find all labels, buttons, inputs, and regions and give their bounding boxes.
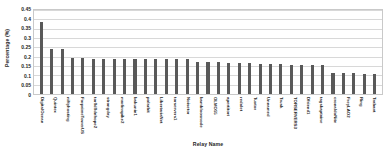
bar[interactable] (352, 73, 355, 94)
x-axis-tick: apertitort (226, 97, 230, 116)
x-axis-tick-slot: Noisetor (181, 96, 194, 140)
bar[interactable] (238, 63, 241, 94)
y-axis-tick: 0.05 (21, 83, 31, 88)
x-axis-tick-slot: apertitort (221, 96, 234, 140)
bar-slot (276, 10, 286, 94)
x-axis-tick: Tuxtor (253, 97, 257, 110)
x-axis-tick-slot: TORSERVERS3 (288, 96, 301, 140)
bar-slot (265, 10, 275, 94)
bar-slot (255, 10, 265, 94)
bar[interactable] (279, 64, 282, 94)
bar[interactable] (311, 65, 314, 94)
bar[interactable] (102, 59, 105, 94)
bar-slot (99, 10, 109, 94)
bar[interactable] (321, 65, 324, 94)
x-axis-tick-slot: tor0d0dnhope2 (88, 96, 101, 140)
bar-slot (224, 10, 234, 94)
x-axis-tick: polarbit (146, 97, 150, 113)
bar[interactable] (331, 73, 334, 94)
y-axis-tick: 0.4 (24, 16, 31, 21)
x-axis-tick-slot: Dfriend1 (301, 96, 314, 140)
x-axis-tick-slot: strongday (102, 96, 115, 140)
bar-slot (36, 10, 46, 94)
bar[interactable] (71, 58, 74, 94)
x-axis-tick: Trusk (279, 97, 283, 108)
bar-slot (171, 10, 181, 94)
bar[interactable] (40, 22, 43, 94)
bar-slot (57, 10, 67, 94)
x-axis-tick-slot: marlinspike2 (115, 96, 128, 140)
bar[interactable] (259, 64, 262, 94)
bar[interactable] (300, 65, 303, 94)
bar-slot (213, 10, 223, 94)
bar[interactable] (363, 74, 366, 94)
x-axis-tick: bambloosnode (199, 97, 203, 128)
bar[interactable] (123, 59, 126, 94)
y-axis-tick: 0.3 (24, 35, 31, 40)
x-axis-tick-slot: FreyLAO2 (341, 96, 354, 140)
bar[interactable] (373, 74, 376, 94)
x-axis-tick: redalet (239, 97, 243, 111)
bar-slot (67, 10, 77, 94)
bar-slot (161, 10, 171, 94)
y-axis-tick: 0.15 (21, 64, 31, 69)
bar[interactable] (269, 64, 272, 94)
bar-slot (140, 10, 150, 94)
bar[interactable] (248, 63, 251, 94)
x-axis-tick: torservers1 (173, 97, 177, 120)
bar[interactable] (217, 62, 220, 94)
bar[interactable] (50, 49, 53, 94)
x-axis-tick-slot: cronaldoNite (328, 96, 341, 140)
x-axis-tick: Unnamed (266, 97, 270, 117)
x-axis-tick: Ring (359, 97, 363, 107)
x-axis-tick: TORSERVERS3 (292, 97, 296, 129)
bar[interactable] (165, 59, 168, 94)
bar-slot (370, 10, 380, 94)
y-axis-tick: 0.45 (21, 7, 31, 12)
x-axis-tick: niftyhosting (66, 97, 70, 122)
x-axis-tick: OLMO55 (213, 97, 217, 115)
x-axis-tick: LibertariaNet (159, 97, 163, 124)
bar-slot (307, 10, 317, 94)
bars-container (34, 10, 382, 94)
x-axis-tick: Quintex (53, 97, 57, 113)
bar-slot (203, 10, 213, 94)
bar[interactable] (81, 58, 84, 94)
bar[interactable] (196, 62, 199, 94)
bar-slot (151, 10, 161, 94)
bar[interactable] (154, 59, 157, 94)
bar-slot (338, 10, 348, 94)
bar[interactable] (206, 62, 209, 94)
bar[interactable] (113, 59, 116, 94)
x-axis-tick: FreyLAO2 (346, 97, 350, 118)
bar-slot (359, 10, 369, 94)
bar[interactable] (92, 59, 95, 94)
x-axis-tick-slot: Unnamed (261, 96, 274, 140)
x-axis-tick-slot: polarbit (142, 96, 155, 140)
x-axis-tick-slot: torservers1 (168, 96, 181, 140)
x-axis-tick-slot: OLMO55 (208, 96, 221, 140)
x-axis-tick-slot: Ring (355, 96, 368, 140)
x-axis-tick-slot: LibertariaNet (155, 96, 168, 140)
bar-slot (297, 10, 307, 94)
bar[interactable] (144, 59, 147, 94)
bar[interactable] (227, 63, 230, 94)
bar-slot (286, 10, 296, 94)
bar[interactable] (61, 49, 64, 94)
x-axis-tick-slot: Trabant (368, 96, 381, 140)
x-axis-tick-slot: bambloosnode (195, 96, 208, 140)
x-axis-tick-slot: Quintex (48, 96, 61, 140)
bar[interactable] (175, 59, 178, 94)
bar[interactable] (186, 59, 189, 94)
bar-slot (119, 10, 129, 94)
x-axis-tick: ForprimeTowerUS (79, 97, 83, 134)
x-axis-tick: Dfriend1 (306, 97, 310, 114)
bar[interactable] (133, 59, 136, 94)
bar[interactable] (290, 65, 293, 94)
x-axis-tick-labels: DigitalOceanQuintexniftyhostingForprimeT… (33, 96, 383, 140)
y-axis-tick-labels: 00.050.10.150.20.250.30.350.40.45 (12, 9, 32, 95)
x-axis-tick: bakunin1 (133, 97, 137, 116)
bar-slot (130, 10, 140, 94)
x-axis-title: Relay Name (33, 141, 383, 147)
bar[interactable] (342, 73, 345, 94)
